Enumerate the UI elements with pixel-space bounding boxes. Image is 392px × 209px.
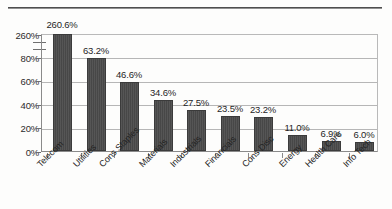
bar-value-label: 23.2%	[250, 104, 276, 115]
bar-value-label: 11.0%	[284, 122, 309, 133]
bar-value-label: 260.6%	[46, 19, 77, 30]
y-tick-label: 40%	[0, 100, 39, 111]
bar-value-label: 34.6%	[150, 87, 176, 98]
bar-value-label: 63.2%	[83, 45, 109, 56]
bar-telecom	[53, 34, 72, 151]
bar-value-label: 23.5%	[217, 103, 243, 114]
bar-chart-figure: 260% 80% 60% 40% 20% 0%	[0, 0, 392, 209]
y-tick-label: 260%	[0, 30, 39, 41]
y-tick-label: 0%	[0, 147, 39, 158]
bar-value-label: 27.5%	[183, 97, 209, 108]
bar-value-label: 46.6%	[116, 69, 142, 80]
y-tick-label: 80%	[0, 53, 39, 64]
bar-utilities	[87, 58, 106, 151]
y-tick-mark	[36, 152, 41, 153]
page-separator-rule	[8, 7, 382, 9]
y-tick-label: 20%	[0, 123, 39, 134]
y-tick-label: 60%	[0, 76, 39, 87]
